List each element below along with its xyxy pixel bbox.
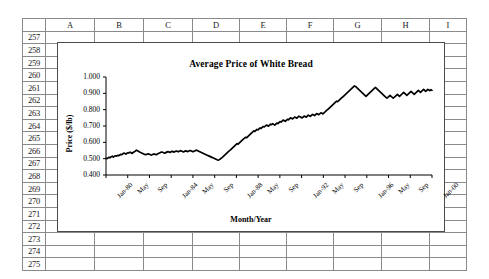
row-header-261[interactable]: 261: [23, 81, 46, 94]
cell-D275[interactable]: [193, 258, 240, 271]
column-header-i[interactable]: I: [430, 19, 467, 32]
cell-D274[interactable]: [193, 245, 240, 258]
cell-C273[interactable]: [144, 233, 193, 246]
column-header-b[interactable]: B: [95, 19, 144, 32]
cell-I274[interactable]: [430, 245, 467, 258]
row-header-270[interactable]: 270: [23, 195, 46, 208]
row-header-260[interactable]: 260: [23, 69, 46, 82]
cell-A274[interactable]: [46, 245, 95, 258]
cell-A275[interactable]: [46, 258, 95, 271]
row-header-265[interactable]: 265: [23, 132, 46, 145]
cell-G275[interactable]: [334, 258, 382, 271]
select-all-corner[interactable]: [23, 19, 46, 32]
cell-I275[interactable]: [430, 258, 467, 271]
row-header-257[interactable]: 257: [23, 31, 46, 44]
cell-C275[interactable]: [144, 258, 193, 271]
row-header-268[interactable]: 268: [23, 170, 46, 183]
cell-A273[interactable]: [46, 233, 95, 246]
row-header-259[interactable]: 259: [23, 56, 46, 69]
cell-B274[interactable]: [95, 245, 144, 258]
row-header-272[interactable]: 272: [23, 220, 46, 233]
cell-F274[interactable]: [287, 245, 334, 258]
table-row[interactable]: 274: [23, 245, 467, 258]
row-header-263[interactable]: 263: [23, 107, 46, 120]
row-header-264[interactable]: 264: [23, 119, 46, 132]
cell-G274[interactable]: [334, 245, 382, 258]
cell-H275[interactable]: [382, 258, 430, 271]
column-header-row: A B C D E F G H I: [23, 19, 467, 32]
cell-E273[interactable]: [240, 233, 287, 246]
cell-H274[interactable]: [382, 245, 430, 258]
cell-H273[interactable]: [382, 233, 430, 246]
column-header-e[interactable]: E: [240, 19, 287, 32]
cell-F275[interactable]: [287, 258, 334, 271]
cell-C274[interactable]: [144, 245, 193, 258]
column-header-g[interactable]: G: [334, 19, 382, 32]
embedded-chart-object[interactable]: Average Price of White Bread Price ($/lb…: [57, 42, 445, 232]
cell-E275[interactable]: [240, 258, 287, 271]
column-header-h[interactable]: H: [382, 19, 430, 32]
cell-E274[interactable]: [240, 245, 287, 258]
row-header-267[interactable]: 267: [23, 157, 46, 170]
cell-G273[interactable]: [334, 233, 382, 246]
cell-F273[interactable]: [287, 233, 334, 246]
column-header-d[interactable]: D: [193, 19, 240, 32]
cell-I273[interactable]: [430, 233, 467, 246]
chart-plot-area: [58, 43, 446, 233]
cell-B275[interactable]: [95, 258, 144, 271]
row-header-275[interactable]: 275: [23, 258, 46, 271]
row-header-273[interactable]: 273: [23, 233, 46, 246]
cell-D273[interactable]: [193, 233, 240, 246]
spreadsheet-app: A B C D E F G H I 2572582592602612622632…: [0, 0, 489, 279]
column-header-c[interactable]: C: [144, 19, 193, 32]
row-header-271[interactable]: 271: [23, 207, 46, 220]
column-header-a[interactable]: A: [46, 19, 95, 32]
row-header-262[interactable]: 262: [23, 94, 46, 107]
cell-B273[interactable]: [95, 233, 144, 246]
row-header-274[interactable]: 274: [23, 245, 46, 258]
axes-group: [103, 77, 432, 178]
table-row[interactable]: 273: [23, 233, 467, 246]
series-line-white-bread: [106, 86, 432, 160]
row-header-269[interactable]: 269: [23, 182, 46, 195]
table-row[interactable]: 275: [23, 258, 467, 271]
column-header-f[interactable]: F: [287, 19, 334, 32]
row-header-258[interactable]: 258: [23, 44, 46, 57]
row-header-266[interactable]: 266: [23, 144, 46, 157]
